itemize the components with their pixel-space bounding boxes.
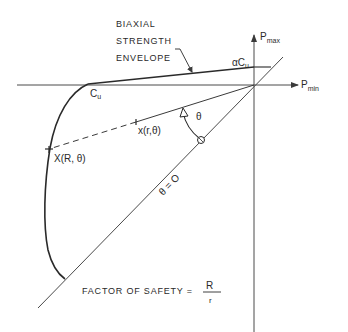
angle-theta-label: θ bbox=[196, 111, 202, 122]
theta-zero-line bbox=[38, 57, 283, 308]
envelope-label-line1: BIAXIAL bbox=[116, 19, 156, 29]
p-min-label: Pmin bbox=[301, 79, 319, 92]
formula-denominator: r bbox=[209, 296, 212, 305]
envelope-label-line2: STRENGTH bbox=[116, 36, 172, 46]
outer-point-label: X(R, θ) bbox=[54, 153, 86, 164]
formula-numerator: R bbox=[206, 280, 213, 291]
envelope-top-segment bbox=[88, 67, 254, 84]
radius-r-ray bbox=[136, 85, 254, 122]
inner-point-label: x(r,θ) bbox=[138, 125, 161, 136]
p-max-label: Pmax bbox=[260, 31, 280, 44]
biaxial-strength-diagram: BIAXIAL STRENGTH ENVELOPE Pmax Pmin αCu … bbox=[0, 0, 348, 332]
alpha-cu-label: αCu bbox=[232, 57, 249, 69]
theta-zero-label: θ = O bbox=[157, 172, 182, 198]
envelope-leader-arrow bbox=[175, 49, 192, 72]
cu-label: Cu bbox=[90, 88, 101, 100]
envelope-label-line3: ENVELOPE bbox=[116, 53, 171, 63]
angle-arrow-head bbox=[180, 108, 188, 117]
envelope-curve bbox=[45, 84, 88, 279]
radius-R-dashed bbox=[49, 122, 136, 149]
factor-of-safety-text: FACTOR OF SAFETY = bbox=[82, 286, 193, 296]
